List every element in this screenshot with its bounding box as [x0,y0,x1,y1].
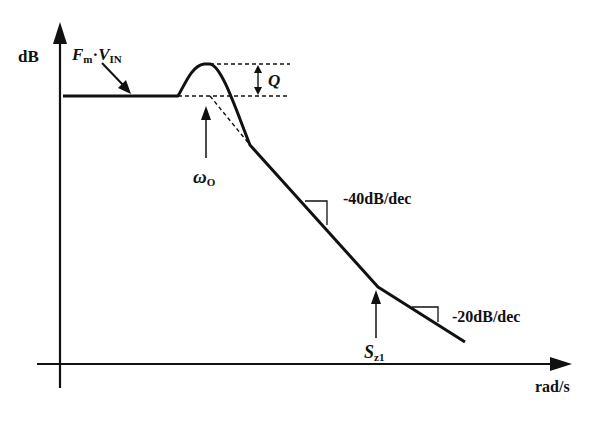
slope-triangle-40 [305,201,327,225]
y-axis [53,22,67,388]
x-axis-label: rad/s [535,378,570,395]
q-label: Q [268,71,280,90]
y-axis-label: dB [18,47,39,66]
x-axis-arrow-icon [550,357,572,371]
slope-20-label: -20dB/dec [452,308,520,325]
dc-gain-label: Fm·VIN [71,45,122,65]
zero-arrow [371,290,381,338]
zero-label: Sz1 [364,342,384,363]
x-axis [37,357,572,371]
omega-label: ωO [193,166,216,188]
bode-plot: dB Fm·VIN Q ωO -40dB/dec -20dB/dec Sz1 r… [0,0,607,423]
slope-40-label: -40dB/dec [343,190,411,207]
y-axis-arrow-icon [53,22,67,44]
q-arrow [254,65,262,95]
omega-arrow [201,106,211,158]
dc-gain-arrow [102,63,131,94]
